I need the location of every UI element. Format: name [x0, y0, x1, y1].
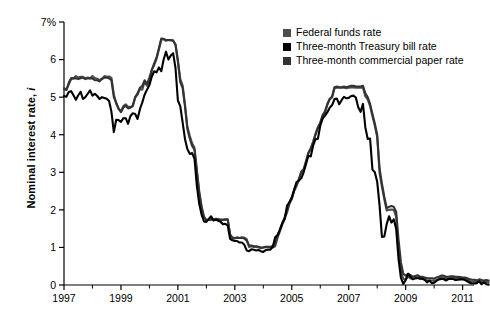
chart-legend: Federal funds rate Three-month Treasury …: [283, 26, 483, 68]
x-axis-ticks: 19971999200120032005200720092011: [52, 285, 474, 304]
legend-item-treasury-bill-rate: Three-month Treasury bill rate: [283, 40, 483, 53]
legend-item-federal-funds-rate: Federal funds rate: [283, 26, 483, 39]
y-tick-label: 6: [50, 53, 56, 65]
y-tick-label: 1: [50, 241, 56, 253]
legend-label-commercial-paper-rate: Three-month commercial paper rate: [296, 55, 463, 66]
y-tick-label: 2: [50, 204, 56, 216]
x-tick-label: 1999: [109, 292, 133, 304]
y-tick-label: 3: [50, 166, 56, 178]
x-tick-label: 2007: [337, 292, 361, 304]
y-axis-ticks: 01234567%: [41, 16, 64, 291]
legend-item-commercial-paper-rate: Three-month commercial paper rate: [283, 54, 483, 67]
y-tick-label: 0: [50, 279, 56, 291]
y-tick-label: 7%: [41, 16, 56, 28]
legend-label-treasury-bill-rate: Three-month Treasury bill rate: [296, 41, 437, 52]
legend-swatch-federal-funds-rate: [283, 29, 291, 37]
x-tick-label: 2001: [166, 292, 190, 304]
y-tick-label: 4: [50, 129, 56, 141]
x-tick-label: 2005: [280, 292, 304, 304]
legend-swatch-treasury-bill-rate: [283, 43, 291, 51]
interest-rate-chart-figure: Nominal interest rate, i 01234567% 19971…: [0, 0, 490, 311]
x-tick-label: 2003: [223, 292, 247, 304]
y-tick-label: 5: [50, 91, 56, 103]
series-line-three-month-treasury-bill-rate: [64, 52, 489, 285]
x-tick-label: 2009: [394, 292, 418, 304]
legend-label-federal-funds-rate: Federal funds rate: [296, 27, 381, 38]
legend-swatch-commercial-paper-rate: [283, 57, 291, 65]
data-series-group: [64, 39, 489, 285]
series-line-federal-funds-rate: [64, 39, 489, 282]
x-tick-label: 2011: [451, 292, 474, 304]
x-tick-label: 1997: [52, 292, 76, 304]
